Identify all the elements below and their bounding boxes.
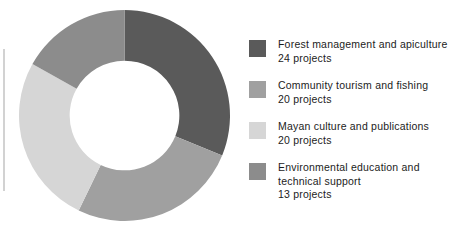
legend-label-community-tourism: Community tourism and fishing bbox=[278, 79, 428, 93]
legend-swatch-icon-environmental-education bbox=[249, 163, 266, 180]
legend-item-mayan-culture: Mayan culture and publications 20 projec… bbox=[249, 120, 454, 151]
legend-text-environmental-education: Environmental education and technical su… bbox=[278, 161, 420, 202]
legend-item-community-tourism: Community tourism and fishing 20 project… bbox=[249, 79, 454, 110]
donut-slice bbox=[79, 136, 222, 221]
chart-legend: Forest management and apiculture 24 proj… bbox=[249, 38, 454, 205]
legend-label-forest-management: Forest management and apiculture bbox=[278, 38, 448, 52]
donut-slice bbox=[125, 10, 230, 155]
page-edge-rule bbox=[3, 49, 5, 191]
legend-swatch-icon-community-tourism bbox=[249, 81, 266, 98]
legend-swatch-icon-mayan-culture bbox=[249, 122, 266, 139]
legend-label-environmental-education-line-1: Environmental education and bbox=[278, 161, 420, 175]
legend-text-forest-management: Forest management and apiculture 24 proj… bbox=[278, 38, 448, 65]
legend-label-environmental-education-line-2: technical support bbox=[278, 175, 420, 189]
legend-count-community-tourism: 20 projects bbox=[278, 93, 428, 107]
donut-chart-graphic bbox=[19, 10, 230, 221]
donut-chart-figure: Forest management and apiculture 24 proj… bbox=[0, 0, 460, 231]
donut-slice bbox=[19, 64, 101, 211]
legend-item-environmental-education: Environmental education and technical su… bbox=[249, 161, 454, 205]
legend-text-community-tourism: Community tourism and fishing 20 project… bbox=[278, 79, 428, 106]
legend-swatch-icon-forest-management bbox=[249, 40, 266, 57]
donut-svg bbox=[19, 10, 230, 221]
legend-text-mayan-culture: Mayan culture and publications 20 projec… bbox=[278, 120, 429, 147]
legend-count-mayan-culture: 20 projects bbox=[278, 134, 429, 148]
donut-slice-group bbox=[19, 10, 230, 221]
legend-count-forest-management: 24 projects bbox=[278, 52, 448, 66]
legend-label-mayan-culture: Mayan culture and publications bbox=[278, 120, 429, 134]
legend-count-environmental-education: 13 projects bbox=[278, 188, 420, 202]
legend-item-forest-management: Forest management and apiculture 24 proj… bbox=[249, 38, 454, 69]
